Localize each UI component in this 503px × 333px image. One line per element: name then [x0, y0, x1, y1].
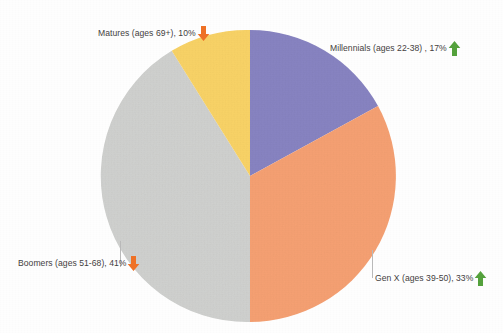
arrow-down-glyph — [197, 25, 210, 42]
pie-label-matures[interactable]: Matures (ages 69+), 10% — [98, 25, 210, 42]
pie-label-matures-text: Matures (ages 69+), 10% — [98, 28, 196, 39]
arrow-down-glyph — [127, 255, 140, 272]
arrow-down-icon — [127, 255, 140, 272]
leader-line-genx — [372, 250, 373, 278]
arrow-up-icon — [474, 270, 487, 287]
pie-label-genx[interactable]: Gen X (ages 39-50), 33% — [375, 270, 487, 287]
pie-label-genx-text: Gen X (ages 39-50), 33% — [375, 273, 473, 284]
arrow-up-glyph — [448, 40, 461, 57]
pie-label-boomers[interactable]: Boomers (ages 51-68), 41% — [18, 255, 140, 272]
pie-chart-figure: Matures (ages 69+), 10% Millennials (age… — [0, 0, 503, 333]
pie-label-boomers-text: Boomers (ages 51-68), 41% — [18, 258, 126, 269]
pie-label-millennials[interactable]: Millennials (ages 22-38) , 17% — [330, 40, 461, 57]
arrow-up-glyph — [474, 270, 487, 287]
pie-label-millennials-text: Millennials (ages 22-38) , 17% — [330, 43, 447, 54]
arrow-down-icon — [197, 25, 210, 42]
arrow-up-icon — [448, 40, 461, 57]
